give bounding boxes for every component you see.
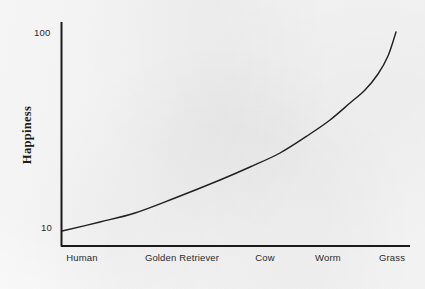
- x-tick-label-golden-retriever: Golden Retriever: [145, 252, 219, 263]
- chart-figure: 100 10 Human Golden Retriever Cow Worm G…: [0, 0, 425, 289]
- y-axis-title: Happiness: [20, 106, 35, 164]
- x-tick-label-worm: Worm: [315, 252, 341, 263]
- x-tick-label-grass: Grass: [379, 252, 405, 263]
- happiness-curve-line: [62, 32, 396, 231]
- x-tick-label-human: Human: [66, 252, 97, 263]
- y-tick-label-10: 10: [41, 222, 52, 233]
- x-tick-label-cow: Cow: [255, 252, 274, 263]
- plot-area: [0, 0, 425, 289]
- y-tick-label-100: 100: [34, 27, 50, 38]
